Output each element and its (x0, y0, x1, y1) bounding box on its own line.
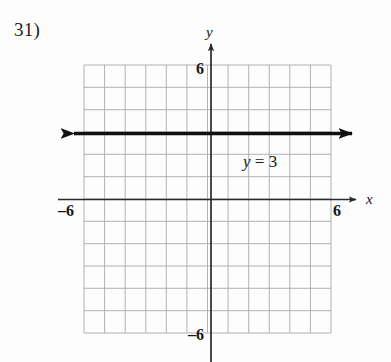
x-axis-tick-label-positive: 6 (333, 203, 341, 219)
y-axis-tick-label-positive: 6 (196, 61, 204, 77)
equation-relation: = (255, 152, 265, 171)
equation-value: 3 (269, 152, 278, 171)
y-axis-label: y (206, 25, 213, 40)
x-axis-label: x (366, 192, 373, 207)
worksheet-page: 31) (0, 0, 391, 362)
x-axis-tick-label-negative: –6 (58, 203, 74, 219)
y-axis-tick-label-negative: –6 (188, 327, 204, 343)
graph-canvas (0, 0, 391, 362)
coordinate-graph: y x 6 –6 6 –6 y = 3 (0, 0, 391, 362)
equation-annotation: y = 3 (243, 153, 277, 170)
equation-variable: y (243, 152, 251, 171)
